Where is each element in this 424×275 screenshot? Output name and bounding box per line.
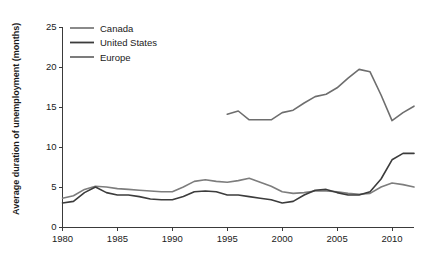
y-tick-label: 15 bbox=[46, 101, 57, 112]
y-axis-title: Average duration of unemployment (months… bbox=[11, 23, 21, 215]
y-axis-title-group: Average duration of unemployment (months… bbox=[11, 23, 21, 215]
x-tick-label: 1990 bbox=[162, 233, 183, 244]
x-axis-ticks: 1980198519901995200020052010 bbox=[52, 227, 403, 244]
legend-label-united-states: United States bbox=[100, 37, 157, 48]
legend-label-canada: Canada bbox=[100, 23, 134, 34]
y-tick-label: 20 bbox=[46, 61, 57, 72]
x-tick-label: 1980 bbox=[52, 233, 73, 244]
legend-label-europe: Europe bbox=[100, 52, 131, 63]
y-tick-label: 5 bbox=[51, 181, 56, 192]
x-tick-label: 2000 bbox=[272, 233, 293, 244]
y-tick-label: 10 bbox=[46, 141, 57, 152]
line-chart: Average duration of unemployment (months… bbox=[0, 0, 424, 275]
x-tick-label: 2005 bbox=[327, 233, 348, 244]
chart-legend: CanadaUnited StatesEurope bbox=[70, 23, 157, 63]
y-axis-ticks: 0510152025 bbox=[46, 21, 63, 232]
x-tick-label: 1985 bbox=[107, 233, 128, 244]
y-tick-label: 25 bbox=[46, 21, 57, 32]
chart-container: Average duration of unemployment (months… bbox=[0, 0, 424, 275]
x-tick-label: 2010 bbox=[381, 233, 402, 244]
series-line-united-states bbox=[63, 153, 415, 203]
y-tick-label: 0 bbox=[51, 221, 56, 232]
series-line-europe bbox=[227, 69, 414, 120]
series-lines bbox=[63, 69, 415, 203]
x-tick-label: 1995 bbox=[217, 233, 238, 244]
